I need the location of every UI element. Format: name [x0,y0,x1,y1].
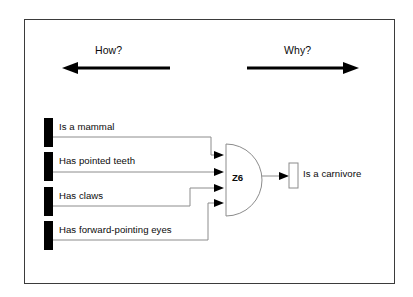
input-bar-mammal[interactable] [44,118,53,147]
input-label-mammal: Is a mammal [59,121,114,132]
diagram-canvas: How? Why? Is a mammal Has pointed teeth … [0,0,413,297]
output-label-carnivore: Is a carnivore [303,168,361,179]
why-label: Why? [284,44,311,56]
arrowhead-input-3 [214,184,224,192]
wire-mammal [53,137,216,155]
input-bar-eyes[interactable] [44,221,53,250]
how-arrow-icon [62,62,170,74]
how-label: How? [95,44,122,56]
output-bar-carnivore[interactable] [289,163,298,188]
input-label-eyes: Has forward-pointing eyes [59,224,172,235]
arrowhead-output [279,172,289,180]
gate-label-z6: Z6 [232,172,243,183]
input-label-pointed-teeth: Has pointed teeth [59,155,135,166]
arrowhead-input-4 [214,199,224,207]
input-bar-claws[interactable] [44,187,53,216]
input-bar-pointed-teeth[interactable] [44,152,53,181]
input-label-claws: Has claws [59,190,103,201]
diagram-graphics [0,0,413,297]
why-arrow-icon [247,62,359,74]
arrowhead-input-2 [214,168,224,176]
arrowhead-input-1 [214,151,224,159]
